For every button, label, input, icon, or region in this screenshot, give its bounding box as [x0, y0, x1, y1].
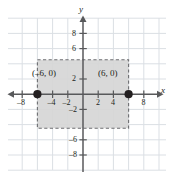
- y-tick-label-pos2: 2: [72, 75, 76, 83]
- y-tick-label-neg2: –2: [69, 106, 77, 114]
- plot-canvas: [0, 0, 173, 182]
- y-tick-label-pos8: 8: [72, 30, 76, 38]
- x-tick-label-neg8: –8: [17, 99, 25, 107]
- y-tick-label-neg6: –6: [69, 136, 77, 144]
- x-tick-label-neg4: –4: [48, 99, 56, 107]
- data-point-right: [125, 90, 133, 98]
- x-axis-label: x: [161, 86, 165, 95]
- coordinate-plane-figure: y x –8 –4 –2 2 4 8 8 6 2 –2 –6 –8 (–6, 0…: [0, 0, 173, 182]
- y-tick-label-neg8: –8: [69, 151, 77, 159]
- x-tick-label-pos8: 8: [142, 99, 146, 107]
- x-tick-label-pos2: 2: [96, 99, 100, 107]
- point-label-right: (6, 0): [98, 69, 118, 78]
- point-label-left: (–6, 0): [32, 69, 56, 78]
- data-point-left: [33, 90, 41, 98]
- y-tick-label-pos6: 6: [72, 45, 76, 53]
- x-tick-label-pos4: 4: [111, 99, 115, 107]
- y-axis-label: y: [79, 5, 83, 14]
